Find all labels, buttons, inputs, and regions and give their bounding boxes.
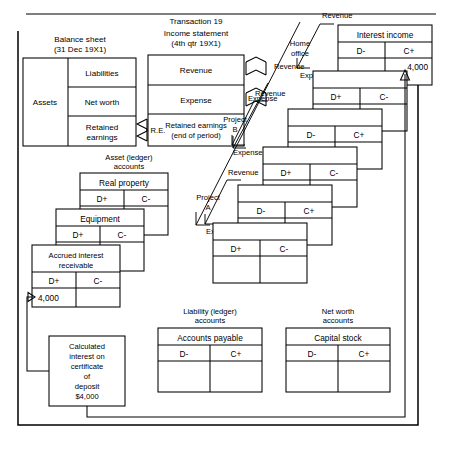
interest-income-credit-value: 4,000 xyxy=(407,62,428,72)
interest-income-title: Interest income xyxy=(357,30,414,40)
asset-card-2-title-2: receivable xyxy=(59,261,94,270)
project-b-label-2: B xyxy=(232,125,237,134)
source-doc-line-6: $4,000 xyxy=(75,392,98,401)
net-worth-card-capital-stock: Capital stock D- C+ xyxy=(286,328,390,392)
balance-sheet-net-worth: Net worth xyxy=(85,98,120,107)
revexp-card-2-debit: D- xyxy=(307,130,316,140)
income-statement-retained-1: Retained earnings xyxy=(165,121,227,130)
net-worth-accounts-heading-1: Net worth xyxy=(322,307,355,316)
balance-sheet-box: Assets Liabilities Net worth Retained ea… xyxy=(23,58,136,146)
balance-sheet-heading-1: Balance sheet xyxy=(54,35,106,44)
revexp-card-5: D+ C- xyxy=(213,223,307,283)
income-statement-expense: Expense xyxy=(180,96,212,105)
interest-income-debit: D- xyxy=(357,46,366,56)
revexp-card-5-credit: C- xyxy=(280,244,289,254)
asset-accounts-heading-1: Asset (ledger) xyxy=(105,153,153,162)
retained-earnings-flow-label: R.E. xyxy=(151,126,166,135)
liability-card-accounts-payable: Accounts payable D- C+ xyxy=(158,328,262,392)
asset-card-accrued-interest: Accrued interest receivable D+ C- 4,000 xyxy=(32,245,120,307)
asset-card-0-credit: C- xyxy=(142,194,151,204)
asset-card-0-debit: D+ xyxy=(97,194,108,204)
revexp-card-2-credit: C+ xyxy=(354,130,365,140)
liability-accounts-heading-2: accounts xyxy=(195,316,226,325)
revexp-card-1-debit: D+ xyxy=(331,92,342,102)
liability-card-credit: C+ xyxy=(231,349,242,359)
income-statement-retained-2: (end of period) xyxy=(171,131,221,140)
asset-card-2-credit: C- xyxy=(94,276,103,286)
project-b-revenue-label: Revenue xyxy=(255,89,285,98)
liability-accounts-heading-1: Liability (ledger) xyxy=(183,307,237,316)
diagram-canvas: Transaction 19 Balance sheet (31 Dec 19X… xyxy=(0,0,460,452)
revexp-card-3-debit: D+ xyxy=(281,168,292,178)
asset-card-1-title: Equipment xyxy=(80,214,120,224)
revexp-card-4-credit: C+ xyxy=(304,206,315,216)
asset-card-0-title: Real property xyxy=(99,178,150,188)
liability-card-debit: D- xyxy=(180,349,189,359)
balance-sheet-retained-2: earnings xyxy=(86,133,117,142)
asset-card-1-credit: C- xyxy=(118,230,127,240)
source-document-box: Calculated interest on certificate of de… xyxy=(49,336,125,406)
source-doc-line-5: deposit xyxy=(75,382,100,391)
source-doc-line-1: Calculated xyxy=(69,342,105,351)
balance-sheet-liabilities: Liabilities xyxy=(85,69,118,78)
transaction-title: Transaction 19 xyxy=(169,17,223,26)
project-b-expense-label: Expense xyxy=(233,148,263,157)
net-worth-accounts-heading-2: accounts xyxy=(323,316,354,325)
project-a-revenue-label: Revenue xyxy=(228,168,258,177)
home-office-revenue-label: Revenue xyxy=(322,11,352,20)
interest-income-credit: C+ xyxy=(404,46,415,56)
revenue-inflow-arrow: Revenue xyxy=(246,57,304,75)
balance-sheet-retained-1: Retained xyxy=(86,123,118,132)
income-statement-heading-1: Income statement xyxy=(164,29,229,38)
revexp-card-1-credit: C- xyxy=(380,92,389,102)
revexp-card-4-debit: D- xyxy=(257,206,266,216)
net-worth-card-debit: D- xyxy=(308,349,317,359)
income-statement-heading-2: (4th qtr 19X1) xyxy=(171,39,221,48)
source-doc-line-3: certificate xyxy=(71,362,104,371)
source-doc-line-2: interest on xyxy=(69,352,104,361)
asset-card-2-title-1: Accrued interest xyxy=(49,251,105,260)
revexp-card-3-credit: C- xyxy=(330,168,339,178)
liability-card-title: Accounts payable xyxy=(177,333,243,343)
net-worth-card-credit: C+ xyxy=(359,349,370,359)
balance-sheet-assets: Assets xyxy=(33,98,57,107)
asset-card-2-debit-value: 4,000 xyxy=(38,293,59,303)
source-doc-line-4: of xyxy=(84,372,91,381)
income-statement-revenue: Revenue xyxy=(180,66,213,75)
asset-card-1-debit: D+ xyxy=(73,230,84,240)
project-b-label-1: Project xyxy=(223,115,248,124)
balance-sheet-heading-2: (31 Dec 19X1) xyxy=(54,45,106,54)
home-office-label-1: Home xyxy=(290,39,310,48)
project-a-label-2: A xyxy=(205,203,211,212)
net-worth-card-title: Capital stock xyxy=(314,333,362,343)
asset-accounts-heading-2: accounts xyxy=(114,162,145,171)
asset-card-2-debit: D+ xyxy=(49,276,60,286)
revexp-card-5-debit: D+ xyxy=(231,244,242,254)
